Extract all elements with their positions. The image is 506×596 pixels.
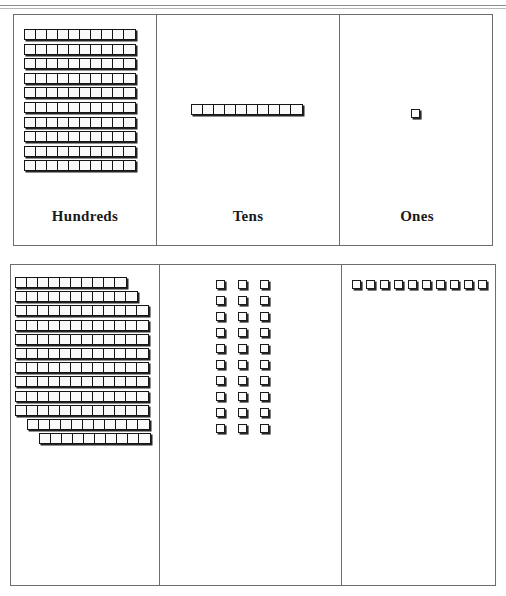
- rod-unit: [82, 392, 93, 401]
- rod-unit: [40, 434, 51, 443]
- rod-unit: [126, 349, 137, 358]
- rod-unit: [104, 292, 115, 301]
- ten-rod: [15, 362, 149, 373]
- hundreds-rod-stack: [15, 277, 151, 447]
- rod-unit: [104, 306, 115, 315]
- rod-stack-row: [15, 291, 151, 302]
- rod-unit: [113, 30, 124, 39]
- rod-unit: [124, 74, 135, 83]
- rod-unit: [49, 335, 60, 344]
- rod-unit: [47, 59, 58, 68]
- unit-cube: [366, 280, 375, 289]
- rod-unit: [38, 406, 49, 415]
- rod-unit: [69, 59, 80, 68]
- rod-unit: [61, 420, 72, 429]
- rod-unit: [84, 434, 95, 443]
- unit-cube: [436, 280, 445, 289]
- rod-unit: [36, 74, 47, 83]
- rod-unit: [27, 349, 38, 358]
- rod-unit: [93, 406, 104, 415]
- rod-unit: [82, 321, 93, 330]
- rod-unit: [69, 74, 80, 83]
- rod-unit: [126, 377, 137, 386]
- rod-unit: [93, 349, 104, 358]
- rod-unit: [116, 420, 127, 429]
- unit-cube: [238, 376, 247, 385]
- rod-unit: [137, 349, 148, 358]
- rod-unit: [139, 434, 150, 443]
- rod-unit: [236, 105, 247, 114]
- rod-unit: [71, 306, 82, 315]
- rod-unit: [91, 74, 102, 83]
- rod-unit: [137, 321, 148, 330]
- chart-top-column-hundreds: Hundreds: [14, 15, 156, 245]
- rod-unit: [71, 335, 82, 344]
- chart-bottom-column-ones: [341, 265, 497, 585]
- column-label-tens: Tens: [157, 208, 339, 225]
- rod-unit: [258, 105, 269, 114]
- rod-unit: [126, 363, 137, 372]
- hundred-flat-block: [24, 29, 136, 171]
- rod-unit: [126, 392, 137, 401]
- rod-stack-row: [15, 391, 151, 402]
- unit-cube: [260, 408, 269, 417]
- rod-unit: [247, 105, 258, 114]
- unit-cube: [422, 280, 431, 289]
- place-value-chart-bottom: [10, 264, 496, 586]
- unit-cube: [260, 392, 269, 401]
- rod-unit: [124, 88, 135, 97]
- rod-unit: [60, 278, 71, 287]
- rod-unit: [113, 161, 124, 170]
- unit-cube: [478, 280, 487, 289]
- rod-unit: [80, 74, 91, 83]
- rod-stack-row: [39, 433, 151, 444]
- rod-unit: [69, 161, 80, 170]
- rod-unit: [269, 105, 280, 114]
- rod-unit: [93, 392, 104, 401]
- rod-unit: [291, 105, 302, 114]
- chart-bottom-column-hundreds: [11, 265, 159, 585]
- rod-unit: [39, 420, 50, 429]
- rod-unit: [115, 349, 126, 358]
- ten-rod: [15, 348, 149, 359]
- rod-unit: [91, 30, 102, 39]
- rod-unit: [73, 434, 84, 443]
- rod-unit: [113, 59, 124, 68]
- rod-unit: [124, 30, 135, 39]
- rod-unit: [113, 103, 124, 112]
- rod-unit: [91, 103, 102, 112]
- rod-unit: [71, 406, 82, 415]
- rod-unit: [104, 392, 115, 401]
- ten-rod: [15, 277, 127, 288]
- rod-stack-row: [15, 362, 151, 373]
- chart-bottom-column-tens: [159, 265, 341, 585]
- rod-unit: [82, 335, 93, 344]
- rod-unit: [36, 132, 47, 141]
- rod-unit: [60, 406, 71, 415]
- rod-unit: [71, 292, 82, 301]
- rod-unit: [102, 147, 113, 156]
- ten-rod: [27, 419, 150, 430]
- rod-unit: [25, 30, 36, 39]
- rod-unit: [49, 363, 60, 372]
- rod-unit: [47, 118, 58, 127]
- rod-unit: [115, 406, 126, 415]
- unit-cube: [216, 312, 225, 321]
- rod-unit: [58, 161, 69, 170]
- rod-unit: [69, 30, 80, 39]
- ten-rod: [24, 29, 136, 40]
- rod-stack-row: [15, 405, 151, 416]
- rod-unit: [71, 377, 82, 386]
- one-cube-block: [411, 104, 420, 122]
- rod-unit: [58, 30, 69, 39]
- rod-unit: [47, 103, 58, 112]
- rod-unit: [49, 292, 60, 301]
- unit-cube: [260, 280, 269, 289]
- rod-stack-row: [15, 348, 151, 359]
- rod-unit: [117, 434, 128, 443]
- rod-unit: [47, 88, 58, 97]
- ten-rod: [39, 433, 151, 444]
- rod-unit: [62, 434, 73, 443]
- rod-unit: [137, 363, 148, 372]
- rod-unit: [16, 406, 27, 415]
